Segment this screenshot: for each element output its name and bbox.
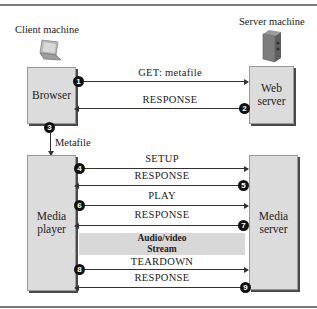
web-server-box: Web server xyxy=(249,66,294,124)
metafile-arrow xyxy=(50,133,51,155)
message-6-arrow xyxy=(80,205,248,206)
step-7-badge: 7 xyxy=(238,220,249,231)
message-5-arrow xyxy=(75,185,240,186)
stream-label-1: Audio/video xyxy=(79,233,245,244)
client-machine-label: Client machine xyxy=(15,24,79,35)
metafile-label: Metafile xyxy=(55,137,91,148)
message-7-label: RESPONSE xyxy=(112,209,212,220)
step-2-badge: 2 xyxy=(239,103,250,114)
web-server-label-1: Web xyxy=(261,82,282,95)
message-7-arrow xyxy=(75,225,240,226)
audio-video-stream-band: Audio/video Stream xyxy=(79,233,245,255)
media-server-label-1: Media xyxy=(259,210,288,223)
message-9-arrow xyxy=(75,287,240,288)
step-3-badge: 3 xyxy=(44,122,55,133)
web-server-label-2: server xyxy=(257,95,285,108)
server-machine-label: Server machine xyxy=(239,16,305,27)
message-5-label: RESPONSE xyxy=(112,170,212,181)
media-player-label-1: Media xyxy=(37,210,66,223)
message-8-label: TEARDOWN xyxy=(112,256,212,267)
message-2-label: RESPONSE xyxy=(120,94,220,105)
media-player-label-2: player xyxy=(37,223,66,236)
step-5-badge: 5 xyxy=(238,180,249,191)
server-tower-icon xyxy=(259,29,285,63)
bottom-rule xyxy=(0,306,317,308)
message-4-arrow xyxy=(80,168,248,169)
step-9-badge: 9 xyxy=(240,282,251,293)
top-rule xyxy=(0,4,317,6)
media-player-box: Media player xyxy=(27,155,76,291)
browser-label: Browser xyxy=(32,89,71,102)
media-server-label-2: server xyxy=(259,223,287,236)
message-4-label: SETUP xyxy=(112,153,212,164)
message-6-label: PLAY xyxy=(112,190,212,201)
message-9-label: RESPONSE xyxy=(112,272,212,283)
message-2-arrow xyxy=(75,108,240,109)
message-1-arrow xyxy=(80,81,248,82)
step-4-badge: 4 xyxy=(74,163,85,174)
step-6-badge: 6 xyxy=(74,200,85,211)
media-server-box: Media server xyxy=(249,155,298,290)
step-8-badge: 8 xyxy=(74,264,85,275)
laptop-icon xyxy=(34,38,64,64)
message-8-arrow xyxy=(80,269,248,270)
stream-label-2: Stream xyxy=(79,244,245,255)
browser-box: Browser xyxy=(27,67,76,124)
step-1-badge: 1 xyxy=(73,76,84,87)
message-1-label: GET: metafile xyxy=(120,67,220,78)
